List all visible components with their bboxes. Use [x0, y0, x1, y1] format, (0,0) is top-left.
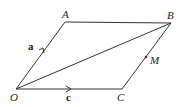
diagram-canvas: O A B C M a c — [0, 0, 179, 107]
parallelogram-diagram: O A B C M a c — [0, 0, 179, 107]
segment-OB — [16, 23, 171, 89]
point-M-dot — [145, 56, 148, 59]
label-A: A — [61, 8, 69, 20]
label-O: O — [10, 91, 18, 103]
segment-AB — [65, 22, 171, 23]
label-vector-a: a — [28, 40, 34, 52]
label-vector-c: c — [66, 91, 71, 103]
label-B: B — [167, 9, 174, 21]
label-M: M — [149, 54, 160, 66]
label-C: C — [117, 91, 125, 103]
